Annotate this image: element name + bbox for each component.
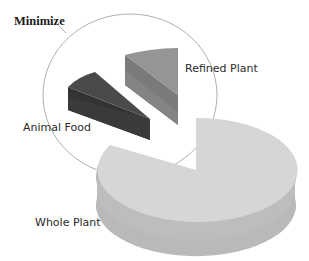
- whole-plant-label: Whole Plant: [35, 216, 101, 229]
- whole-plant-slice: [96, 118, 298, 256]
- refined-plant-label: Refined Plant: [185, 62, 258, 75]
- animal-food-label: Animal Food: [23, 121, 91, 134]
- minimize-title: Minimize: [14, 14, 65, 29]
